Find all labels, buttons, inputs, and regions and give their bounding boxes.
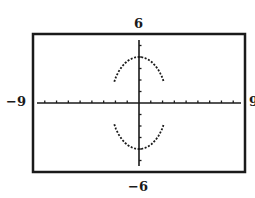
graph-window xyxy=(0,0,255,198)
